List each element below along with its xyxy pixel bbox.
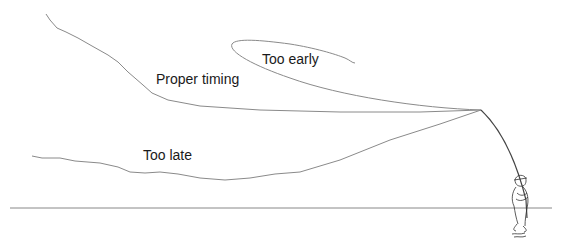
too-late-label: Too late	[143, 148, 192, 162]
too-late-line	[32, 110, 481, 180]
too-early-label: Too early	[262, 52, 319, 66]
fly-rod	[481, 110, 527, 218]
angler	[512, 175, 528, 237]
casting-diagram: Proper timing Too early Too late	[0, 0, 561, 241]
diagram-svg	[0, 0, 561, 241]
proper-timing-label: Proper timing	[156, 72, 239, 86]
